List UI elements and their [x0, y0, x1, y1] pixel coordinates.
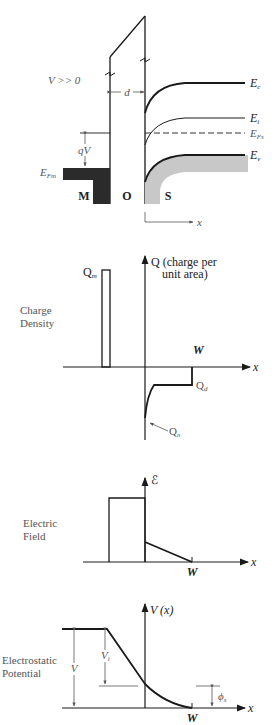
- qd-label: Qd: [196, 379, 208, 393]
- oxide-field: [109, 498, 145, 562]
- conduction-band-edge: [145, 83, 245, 113]
- metal-charge-bar: [102, 270, 110, 367]
- charge-density-title-1: Charge: [20, 304, 52, 316]
- qn-label: Qn: [169, 425, 181, 439]
- qv-label: qV: [78, 144, 92, 156]
- charge-w-label: W: [193, 343, 205, 357]
- charge-x-label: x: [252, 360, 259, 374]
- oxide-thickness-label: d: [124, 86, 130, 98]
- electric-field-plot: Electric Field ℰ x W: [23, 473, 257, 579]
- charge-density-title-2: Density: [20, 317, 55, 329]
- depletion-charge-profile: [145, 367, 192, 418]
- charge-y-label-2: unit area): [162, 267, 208, 281]
- field-y-label: ℰ: [151, 473, 158, 487]
- field-x-label: x: [250, 555, 257, 569]
- ei-label: Ei: [249, 111, 259, 126]
- metal-fermi-label: EFm: [39, 166, 56, 180]
- potential-title-1: Electrostatic: [2, 654, 57, 666]
- band-x-axis: [145, 212, 193, 222]
- semiconductor-region-label: S: [165, 189, 172, 203]
- potential-y-label: V (x): [150, 603, 173, 617]
- band-diagram: d V >> 0 qV EFm Ec Ei EFs Ev M O S: [39, 16, 264, 228]
- potential-plot: Electrostatic Potential V (x) x W V Vi ϕ…: [2, 603, 254, 725]
- axis-break-icon: [140, 58, 150, 62]
- qn-pointer: [150, 423, 168, 431]
- intrinsic-level: [145, 118, 245, 145]
- ev-label: Ev: [249, 148, 261, 163]
- potential-x-label: x: [247, 701, 254, 715]
- mos-diagram: d V >> 0 qV EFm Ec Ei EFs Ev M O S: [0, 0, 276, 725]
- potential-curve: [62, 629, 192, 708]
- band-x-label: x: [196, 216, 202, 228]
- efs-label: EFs: [249, 127, 264, 141]
- charge-density-plot: Charge Density Q (charge per unit area) …: [20, 255, 259, 440]
- phis-label: ϕs: [218, 690, 227, 704]
- metal-region-label: M: [78, 189, 89, 203]
- bias-label: V >> 0: [48, 74, 81, 86]
- qm-label: Qm: [83, 265, 97, 280]
- oxide-region-label: O: [122, 189, 131, 203]
- ec-label: Ec: [249, 76, 261, 91]
- potential-title-2: Potential: [2, 667, 41, 679]
- oxide-band-edge: [110, 16, 145, 57]
- electric-field-title-1: Electric: [23, 517, 57, 529]
- field-w-label: W: [187, 565, 199, 579]
- semiconductor-field: [145, 542, 192, 562]
- potential-w-label: W: [187, 711, 199, 725]
- axis-break-icon: [105, 72, 115, 76]
- electric-field-title-2: Field: [23, 530, 46, 542]
